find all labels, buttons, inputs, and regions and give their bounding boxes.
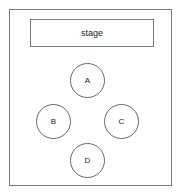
seat-d-label: D xyxy=(85,156,91,165)
seat-b-label: B xyxy=(51,117,56,126)
seat-d: D xyxy=(70,143,105,178)
seat-b: B xyxy=(36,104,71,139)
seat-c: C xyxy=(104,104,139,139)
seat-a-label: A xyxy=(85,76,90,85)
stage-box: stage xyxy=(30,19,154,47)
stage-label: stage xyxy=(81,28,103,38)
seat-a: A xyxy=(70,63,105,98)
seat-c-label: C xyxy=(119,117,125,126)
